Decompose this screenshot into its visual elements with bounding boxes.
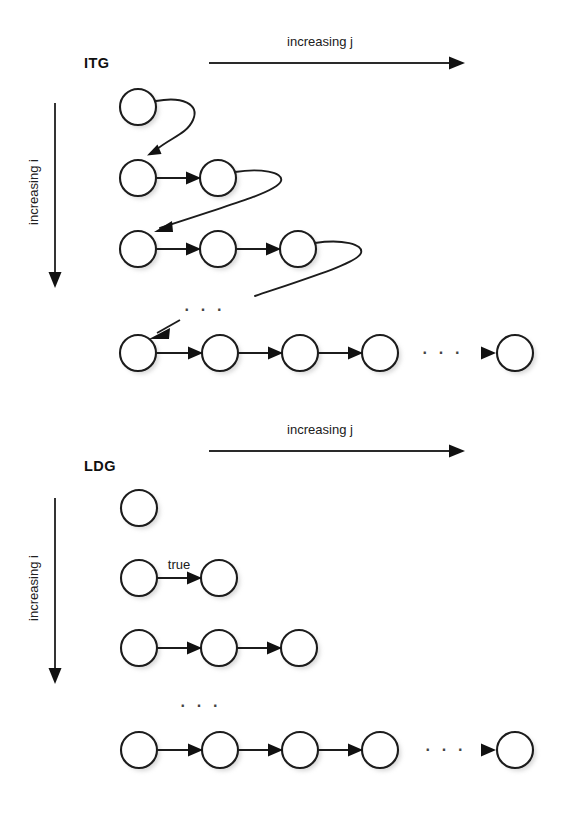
ldg-node-r3-c3[interactable] [281, 630, 317, 666]
itg-edge-arrow-icon [186, 243, 201, 256]
section-itg: increasing j increasing i ITG [26, 34, 536, 374]
ldg-node-r3-c2[interactable] [201, 630, 237, 666]
itg-node-r1-c1[interactable] [120, 89, 156, 125]
itg-trailing-ellipsis: · · · [423, 344, 464, 361]
itg-node-r4-c4[interactable] [362, 335, 398, 371]
itg-wrap-curve-1 [156, 100, 195, 150]
itg-horizontal-axis: increasing j [209, 34, 465, 70]
itg-node-r3-c3[interactable] [280, 231, 316, 267]
itg-row-4: · · · [120, 320, 536, 374]
ldg-section-label: LDG [84, 458, 116, 474]
itg-node-r3-c1[interactable] [120, 231, 156, 267]
itg-edge-arrow-icon [266, 243, 281, 256]
ldg-horizontal-axis-arrow-icon [449, 445, 465, 458]
itg-vertical-axis-label: increasing i [26, 159, 41, 225]
itg-edge-arrow-icon [188, 347, 203, 360]
ldg-vertical-axis-label: increasing i [26, 555, 41, 621]
ldg-node-r4-c4[interactable] [362, 732, 398, 768]
itg-horizontal-axis-arrow-icon [449, 57, 465, 70]
itg-vertical-axis: increasing i [26, 103, 62, 288]
itg-edge-arrow-icon [348, 347, 363, 360]
itg-wrap-arrow-1-icon [147, 145, 162, 156]
itg-row-3 [120, 231, 319, 270]
ldg-edge-label-true: true [168, 557, 190, 572]
itg-node-r4-last[interactable] [497, 335, 533, 371]
itg-row-2 [120, 160, 239, 199]
itg-node-r2-c2[interactable] [200, 160, 236, 196]
ldg-node-r4-last[interactable] [497, 732, 533, 768]
ldg-row-1 [121, 490, 160, 529]
itg-edge-arrow-icon [268, 347, 283, 360]
itg-node-r4-c3[interactable] [282, 335, 318, 371]
ldg-edge-arrow-icon [187, 642, 202, 655]
itg-node-r2-c1[interactable] [120, 160, 156, 196]
itg-trailing-arrow-icon [481, 347, 496, 360]
ldg-trailing-ellipsis: · · · [426, 741, 467, 758]
ldg-node-r2-c1[interactable] [121, 560, 157, 596]
itg-node-r3-c2[interactable] [200, 231, 236, 267]
ldg-row-2: true [121, 557, 240, 599]
itg-incoming-wrap-arrow-icon [149, 328, 170, 339]
figure-root: increasing j increasing i ITG [0, 0, 569, 818]
ldg-horizontal-axis: increasing j [209, 422, 465, 458]
ldg-node-r3-c1[interactable] [121, 630, 157, 666]
ldg-vertical-axis-arrow-icon [49, 668, 62, 684]
itg-node-r4-c1[interactable] [120, 335, 156, 371]
itg-row-ellipsis: · · · [185, 301, 226, 318]
ldg-row-4: · · · [121, 732, 536, 771]
ldg-vertical-axis: increasing i [26, 498, 62, 684]
ldg-trailing-arrow-icon [481, 744, 496, 757]
itg-vertical-axis-arrow-icon [49, 272, 62, 288]
itg-ldg-diagram: increasing j increasing i ITG [0, 0, 569, 818]
ldg-edge-arrow-icon [187, 572, 202, 585]
ldg-node-r2-c2[interactable] [201, 560, 237, 596]
ldg-horizontal-axis-label: increasing j [287, 422, 353, 437]
itg-section-label: ITG [84, 55, 109, 71]
ldg-edge-arrow-icon [268, 744, 283, 757]
section-ldg: increasing j increasing i LDG [26, 422, 536, 771]
itg-incoming-wrap-arrow [149, 320, 180, 339]
itg-row-1 [120, 89, 159, 128]
ldg-node-r4-c1[interactable] [121, 732, 157, 768]
ldg-edge-arrow-icon [188, 744, 203, 757]
itg-horizontal-axis-label: increasing j [287, 34, 353, 49]
ldg-row-3 [121, 630, 320, 669]
itg-wrap-arrow-2-icon [154, 221, 173, 232]
ldg-edge-arrow-icon [267, 642, 282, 655]
ldg-node-r4-c3[interactable] [282, 732, 318, 768]
ldg-node-r4-c2[interactable] [202, 732, 238, 768]
ldg-edge-arrow-icon [348, 744, 363, 757]
ldg-row-ellipsis: · · · [181, 697, 222, 714]
itg-node-r4-c2[interactable] [202, 335, 238, 371]
itg-edge-arrow-icon [186, 172, 201, 185]
ldg-node-r1-c1[interactable] [121, 490, 157, 526]
